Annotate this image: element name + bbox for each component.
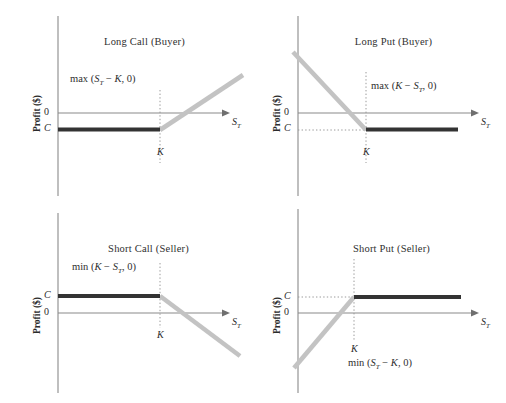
y-axis-label: Profit ($) <box>272 95 282 132</box>
x-axis-arrow <box>471 110 479 117</box>
panel-title: Long Put (Buyer) <box>267 36 506 47</box>
y-tick-zero: 0 <box>284 106 289 117</box>
strike-label: K <box>363 146 370 157</box>
x-axis-arrow <box>222 110 230 117</box>
y-tick-zero: 0 <box>284 306 289 317</box>
intrinsic-value-line <box>160 75 243 130</box>
payoff-formula: min (ST − K, 0) <box>348 357 412 371</box>
panel-long-call-buyer: Long Call (Buyer) max (ST − K, 0) Profit… <box>0 0 253 201</box>
y-tick-zero: 0 <box>44 106 49 117</box>
x-axis-label: ST <box>232 316 241 329</box>
y-tick-premium: C <box>284 290 291 301</box>
payoff-formula: max (ST − K, 0) <box>70 73 136 87</box>
strike-label: K <box>157 146 164 157</box>
long-put-plot <box>253 0 506 201</box>
panel-title: Long Call (Buyer) <box>18 36 271 47</box>
intrinsic-value-line <box>160 296 240 356</box>
y-tick-premium: C <box>284 122 291 133</box>
x-axis-label: ST <box>232 116 241 129</box>
x-axis-arrow <box>471 310 479 317</box>
intrinsic-value-line <box>293 52 366 130</box>
short-put-plot <box>253 201 506 402</box>
panel-short-call-seller: Short Call (Seller) min (K − ST, 0) Prof… <box>0 201 253 402</box>
y-tick-premium: C <box>44 122 51 133</box>
y-tick-zero: 0 <box>44 306 49 317</box>
panel-long-put-buyer: Long Put (Buyer) max (K − ST, 0) Profit … <box>253 0 506 201</box>
payoff-formula: max (K − ST, 0) <box>371 80 437 94</box>
y-tick-premium: C <box>44 289 51 300</box>
strike-label: K <box>157 329 164 340</box>
intrinsic-value-line <box>294 297 354 368</box>
payoff-formula: min (K − ST, 0) <box>72 261 136 275</box>
panel-title: Short Call (Seller) <box>22 243 275 254</box>
panel-title: Short Put (Seller) <box>265 243 506 254</box>
y-axis-label: Profit ($) <box>32 95 42 132</box>
option-payoff-figure: Long Call (Buyer) max (ST − K, 0) Profit… <box>0 0 506 403</box>
x-axis-label: ST <box>481 316 490 329</box>
panel-short-put-seller: Short Put (Seller) min (ST − K, 0) Profi… <box>253 201 506 402</box>
y-axis-label: Profit ($) <box>272 297 282 334</box>
x-axis-label: ST <box>481 116 490 129</box>
strike-label: K <box>351 343 358 354</box>
x-axis-arrow <box>222 310 230 317</box>
y-axis-label: Profit ($) <box>32 297 42 334</box>
